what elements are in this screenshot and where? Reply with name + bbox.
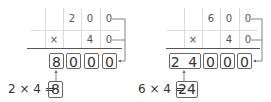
multiplication-problem-1: 2 0 0 × 4 0 8 0 0 0 2 × 4 = 8 [0, 0, 135, 102]
equation-answer: 8 [48, 81, 63, 98]
equation-answer: 24 [176, 81, 198, 98]
multiplication-problem-2: 6 0 0 × 4 0 2 4 0 0 0 6 × 4 = 24 [136, 0, 271, 102]
